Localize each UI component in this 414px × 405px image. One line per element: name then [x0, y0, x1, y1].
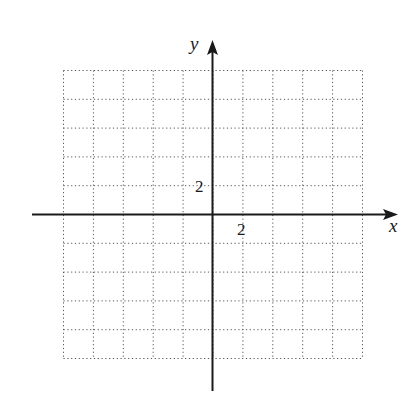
x-axis	[32, 209, 398, 220]
y-tick-label: 2	[195, 177, 204, 196]
coordinate-plane: y x 2 2	[0, 0, 414, 405]
x-tick-label: 2	[237, 220, 246, 239]
y-axis-label: y	[188, 33, 199, 54]
x-axis-label: x	[388, 215, 398, 236]
